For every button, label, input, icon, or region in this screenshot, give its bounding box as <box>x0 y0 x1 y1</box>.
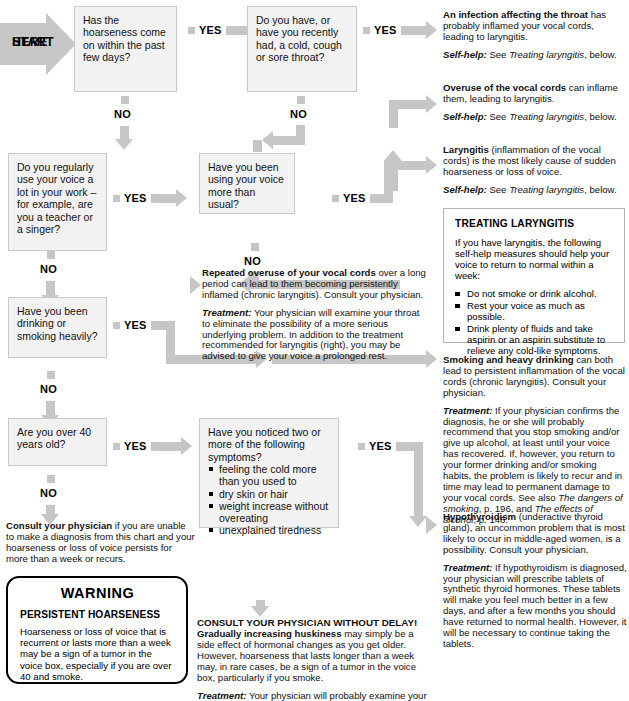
answer-laryngitis: Laryngitis (inflammation of the vocal co… <box>443 145 625 196</box>
answer-laryngitis-lead: Laryngitis <box>443 144 489 155</box>
no-tick-q2 <box>297 96 305 104</box>
question-box-5[interactable]: Have you been drinking or smoking heavil… <box>8 297 107 358</box>
no-tick-q6 <box>47 475 55 483</box>
symptom-item: feeling the cold more than you used to <box>208 463 331 487</box>
yes-tick-q1 <box>188 27 195 34</box>
answer-repeated-overuse-body: Repeated overuse of your vocal cords ove… <box>202 268 426 301</box>
warning-body: Hoarseness or loss of voice that is recu… <box>20 626 175 682</box>
question-box-3[interactable]: Do you regularly use your voice a lot in… <box>8 153 107 251</box>
connector-q3-yes-arrow <box>176 189 187 207</box>
connector-hypothyroid-arrow <box>426 516 437 534</box>
treatment-label: Treatment: <box>443 562 492 573</box>
yes-label-q7: YES <box>369 440 392 452</box>
connector-smoking-arrow <box>426 350 437 368</box>
answer-smoking-treatment: Treatment: If your physician confirms th… <box>443 406 627 526</box>
yes-tick-q6 <box>113 443 120 450</box>
question-box-1[interactable]: Has the hoarseness come on within the pa… <box>74 6 177 92</box>
answer-smoking-body: Smoking and heavy drinking can both lead… <box>443 355 627 399</box>
answer-infection-body: An infection affecting the throat has pr… <box>443 10 625 43</box>
yes-label-q4: YES <box>343 192 366 204</box>
connector-q3-yes-bar <box>151 194 176 203</box>
treatment-label: Treatment: <box>443 405 492 416</box>
connector-q2-no-horiz <box>273 136 305 145</box>
answer-overuse-selfhelp: Self-help: See Treating laryngitis, belo… <box>443 112 625 123</box>
yes-label-q6: YES <box>124 440 147 452</box>
treatment-label: Treatment: <box>197 690 246 701</box>
no-label-q1: NO <box>114 108 131 120</box>
answer-repeated-overuse: Repeated overuse of your vocal cords ove… <box>202 268 426 362</box>
yes-tick-q2 <box>363 27 370 34</box>
yes-tick-q4 <box>332 195 339 202</box>
yes-label-q3: YES <box>124 192 147 204</box>
answer-overuse-lead: Overuse of the vocal cords <box>443 82 566 93</box>
panel-intro: If you have laryngitis, the following se… <box>455 237 614 281</box>
answer-infection: An infection affecting the throat has pr… <box>443 10 625 61</box>
selfhelp-label: Self-help: <box>443 111 487 122</box>
answer-repeated-overuse-lead: Repeated overuse of your vocal cords <box>202 267 376 278</box>
selfhelp-label: Self-help: <box>443 184 487 195</box>
warning-subtitle: PERSISTENT HOARSENESS <box>20 609 175 620</box>
warning-box: WARNING PERSISTENT HOARSENESS Hoarseness… <box>6 576 188 684</box>
connector-repeated-overuse-arrow <box>190 276 201 294</box>
selfhelp-ref: Treating laryngitis <box>509 111 584 122</box>
answer-consult-body: Consult your physician if you are unable… <box>6 521 195 565</box>
connector-q4-yes-vert <box>384 160 393 203</box>
answer-consult-lead: Consult your physician <box>6 520 112 531</box>
consult-delay-treatment: Treatment: Your physician will probably … <box>197 691 427 701</box>
no-tick-q1 <box>121 96 129 104</box>
panel-measure-item: Do not smoke or drink alcohol. <box>455 288 614 299</box>
no-tick-q4 <box>251 243 259 251</box>
connector-q5-no-bar <box>46 401 55 416</box>
question-7-symptom-list: feeling the cold more than you used to d… <box>208 463 331 536</box>
connector-laryngitis-horiz <box>389 161 426 170</box>
answer-overuse-body: Overuse of the vocal cords can inflame t… <box>443 83 625 105</box>
answer-laryngitis-body: Laryngitis (inflammation of the vocal co… <box>443 145 625 178</box>
question-7-stem: Have you noticed two or more of the foll… <box>208 426 331 463</box>
yes-tick-q7 <box>358 443 365 450</box>
no-label-q5: NO <box>40 383 57 395</box>
answer-hypothyroidism: Hypothyroidism (underactive thyroid glan… <box>443 512 627 650</box>
answer-laryngitis-selfhelp: Self-help: See Treating laryngitis, belo… <box>443 185 625 196</box>
yes-label-q2: YES <box>374 24 397 36</box>
question-box-6[interactable]: Are you over 40 years old? <box>8 418 107 466</box>
question-box-2[interactable]: Do you have, or have you recently had, a… <box>247 6 357 92</box>
symptom-item: weight increase without overeating <box>208 500 331 524</box>
consult-delay-body: Gradually increasing huskiness may simpl… <box>197 629 427 684</box>
answer-hypothyroidism-lead: Hypothyroidism <box>443 511 516 522</box>
selfhelp-label: Self-help: <box>443 49 487 60</box>
panel-measure-list: Do not smoke or drink alcohol. Rest your… <box>455 288 614 356</box>
connector-q2-no-drop <box>253 140 262 152</box>
connector-q6-yes-bar <box>151 442 181 451</box>
answer-hypothyroidism-treatment: Treatment: If hypothyroidism is diagnose… <box>443 563 627 650</box>
start-here-arrow: STARTHERE <box>0 13 76 75</box>
panel-measure-item: Drink plenty of fluids and take aspirin … <box>455 323 614 356</box>
connector-q1-no-arrow <box>115 139 133 150</box>
symptom-item: unexplained tiredness <box>208 524 331 536</box>
answer-repeated-overuse-treatment: Treatment: Your physician will examine y… <box>202 308 426 363</box>
yes-tick-q3 <box>113 195 120 202</box>
answer-smoking: Smoking and heavy drinking can both lead… <box>443 355 627 526</box>
connector-q1-no-bar <box>120 126 129 140</box>
answer-consult-physician: Consult your physician if you are unable… <box>6 521 195 565</box>
treatment-label: Treatment: <box>202 307 251 318</box>
connector-q7-yes-vert <box>414 442 423 517</box>
connector-q2-no-arrow <box>262 131 273 149</box>
panel-title: TREATING LARYNGITIS <box>455 218 614 229</box>
no-tick-q3 <box>47 251 55 259</box>
yes-tick-q5 <box>113 322 120 329</box>
selfhelp-ref: Treating laryngitis <box>509 184 584 195</box>
yes-label-q1: YES <box>199 24 222 36</box>
answer-infection-selfhelp: Self-help: See Treating laryngitis, belo… <box>443 50 625 61</box>
question-box-4[interactable]: Have you been using your voice more than… <box>199 153 295 214</box>
answer-infection-lead: An infection affecting the throat <box>443 9 588 20</box>
symptom-item: dry skin or hair <box>208 488 331 500</box>
connector-q2-yes-bar <box>401 26 426 35</box>
connector-q2-yes-arrow <box>426 21 437 39</box>
connector-laryngitis-arrow <box>426 156 437 174</box>
answer-hypothyroidism-body: Hypothyroidism (underactive thyroid glan… <box>443 512 627 556</box>
no-label-q4: NO <box>244 255 261 267</box>
treating-laryngitis-panel: TREATING LARYNGITIS If you have laryngit… <box>443 208 625 343</box>
selfhelp-ref: Treating laryngitis <box>509 49 584 60</box>
question-box-7[interactable]: Have you noticed two or more of the foll… <box>199 418 339 528</box>
answer-consult-without-delay: CONSULT YOUR PHYSICIAN WITHOUT DELAY! Gr… <box>197 617 427 701</box>
